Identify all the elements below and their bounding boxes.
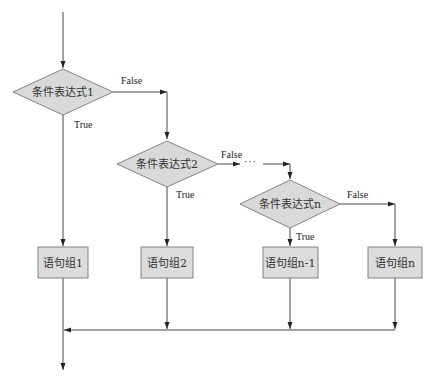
- condition-1-label: 条件表达式1: [32, 87, 94, 98]
- cond1-false-label: False: [121, 76, 142, 86]
- condition-2-label: 条件表达式2: [136, 159, 198, 170]
- cond2-true-label: True: [176, 190, 195, 200]
- cond2-false-label: False: [221, 150, 242, 160]
- condition-n-label: 条件表达式n: [259, 199, 321, 210]
- block-n-1-label: 语句组n-1: [265, 258, 316, 269]
- condn-false-label: False: [347, 190, 368, 200]
- flowchart-canvas: [0, 0, 435, 380]
- block-2-label: 语句组2: [147, 258, 187, 269]
- condn-true-label: True: [296, 232, 315, 242]
- ellipsis: ···: [244, 157, 257, 167]
- block-n-label: 语句组n: [375, 258, 415, 269]
- cond1-true-label: True: [74, 120, 93, 130]
- block-1-label: 语句组1: [43, 258, 83, 269]
